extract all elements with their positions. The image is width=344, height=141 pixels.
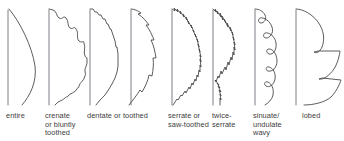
leaf-label-twice-serrate: twice- serrate [212,112,235,129]
leaf-twice-serrate-margin [213,9,235,105]
leaf-serrate [172,8,201,105]
leaf-label-dentate: dentate or toothed [87,112,148,121]
leaf-serrate-margin [172,8,201,105]
leaf-crenate-margin [49,9,87,105]
leaf-crenate [49,9,87,105]
leaf-entire-margin [9,9,35,105]
leaf-entire [8,9,35,105]
leaf-dentate-margin [90,9,118,105]
leaf-label-lobed: lobed [302,112,320,121]
leaf-margin-diagram: entire crenate or bluntly toothed dentat… [0,0,344,141]
leaf-sinuate [255,9,277,105]
leaf-twice-serrate [213,9,235,105]
leaf-lobed [296,9,341,105]
leaf-dentate-2-margin [129,9,156,105]
leaf-sinuate-margin [255,9,277,105]
leaf-lobed-margin [296,9,341,105]
leaf-dentate-2 [129,9,156,105]
leaf-label-crenate: crenate or bluntly toothed [45,112,76,138]
leaf-dentate [90,9,118,105]
leaf-label-serrate: serrate or saw-toothed [168,112,209,129]
leaf-label-sinuate: sinuate/ undulate wavy [253,112,282,138]
leaf-label-entire: entire [6,112,25,121]
